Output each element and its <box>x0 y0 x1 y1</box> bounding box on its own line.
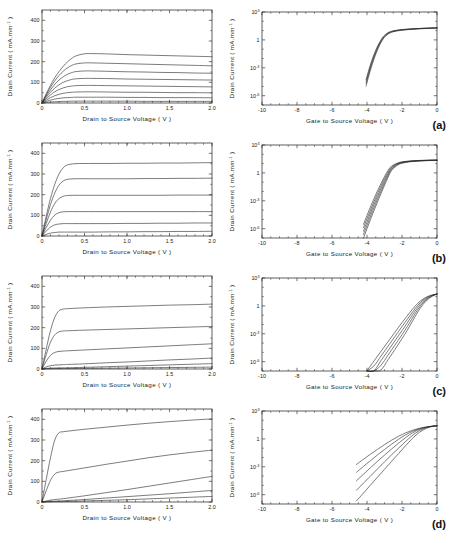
svg-text:Drain Current ( mA.mm-1 ): Drain Current ( mA.mm-1 ) <box>228 19 235 99</box>
panel-d-transfer-plot: -10-8-6-4-2010-610-31103Gate to Source V… <box>224 399 449 532</box>
svg-text:10-3: 10-3 <box>250 65 259 71</box>
svg-text:1: 1 <box>257 436 260 442</box>
svg-text:1.0: 1.0 <box>123 371 131 377</box>
panel-d-output-plot: 00.51.01.52.00100200300400Drain to Sourc… <box>0 399 224 532</box>
svg-text:1.0: 1.0 <box>123 504 131 510</box>
panel-row-b: 00.51.01.52.00100200300400Drain to Sourc… <box>0 133 449 266</box>
svg-text:Drain to Source Voltage ( V: Drain to Source Voltage ( V ) <box>83 381 172 388</box>
svg-text:300: 300 <box>31 304 40 310</box>
svg-text:Drain Current ( mA.mm-1 ): Drain Current ( mA.mm-1 ) <box>6 17 13 97</box>
panel-letter-c: (c) <box>433 385 446 397</box>
svg-text:-8: -8 <box>295 107 300 113</box>
svg-text:1.5: 1.5 <box>166 238 174 244</box>
svg-text:1.0: 1.0 <box>123 238 131 244</box>
svg-text:0: 0 <box>41 238 44 244</box>
svg-text:200: 200 <box>31 325 40 331</box>
svg-text:1.5: 1.5 <box>166 105 174 111</box>
figure-root: 00.51.01.52.00100200300400Drain to Sourc… <box>0 0 449 535</box>
panel-c-output-svg: 00.51.01.52.00100200300400Drain to Sourc… <box>0 266 224 399</box>
svg-text:0: 0 <box>436 107 439 113</box>
panel-row-c: 00.51.01.52.00100200300400Drain to Sourc… <box>0 266 449 399</box>
svg-text:0: 0 <box>436 373 439 379</box>
svg-text:-6: -6 <box>330 373 335 379</box>
svg-text:-2: -2 <box>400 506 405 512</box>
svg-text:0: 0 <box>37 233 40 239</box>
svg-text:-10: -10 <box>258 240 266 246</box>
svg-text:-10: -10 <box>258 506 266 512</box>
svg-text:103: 103 <box>251 275 259 281</box>
svg-text:1: 1 <box>257 170 260 176</box>
svg-text:-6: -6 <box>330 240 335 246</box>
panel-letter-a: (a) <box>433 119 446 131</box>
svg-text:300: 300 <box>31 437 40 443</box>
svg-text:0.5: 0.5 <box>81 504 89 510</box>
svg-text:-8: -8 <box>295 373 300 379</box>
svg-text:0.5: 0.5 <box>81 238 89 244</box>
svg-text:100: 100 <box>31 79 40 85</box>
svg-text:-8: -8 <box>295 240 300 246</box>
svg-text:Gate to Source Voltage ( V ): Gate to Source Voltage ( V ) <box>306 250 393 257</box>
svg-text:Gate to Source Voltage ( V ): Gate to Source Voltage ( V ) <box>306 516 393 523</box>
svg-text:1: 1 <box>257 37 260 43</box>
svg-text:-10: -10 <box>258 107 266 113</box>
svg-text:Drain to Source Voltage ( V: Drain to Source Voltage ( V ) <box>83 514 172 521</box>
svg-text:Drain Current ( mA.mm-1 ): Drain Current ( mA.mm-1 ) <box>228 285 235 365</box>
svg-text:0.5: 0.5 <box>81 371 89 377</box>
svg-text:2.0: 2.0 <box>208 238 216 244</box>
svg-text:200: 200 <box>31 192 40 198</box>
svg-text:300: 300 <box>31 38 40 44</box>
svg-text:2.0: 2.0 <box>208 105 216 111</box>
panel-d-output-svg: 00.51.01.52.00100200300400Drain to Sourc… <box>0 399 224 532</box>
panel-a-transfer-plot: -10-8-6-4-2010-610-31103Gate to Source V… <box>224 0 449 133</box>
svg-text:0: 0 <box>436 240 439 246</box>
svg-text:Drain Current ( mA.mm-1 ): Drain Current ( mA.mm-1 ) <box>6 283 13 363</box>
panel-row-d: 00.51.01.52.00100200300400Drain to Sourc… <box>0 399 449 532</box>
svg-text:10-3: 10-3 <box>250 464 259 470</box>
svg-text:-8: -8 <box>295 506 300 512</box>
svg-text:400: 400 <box>31 17 40 23</box>
svg-text:0: 0 <box>436 506 439 512</box>
svg-text:-6: -6 <box>330 107 335 113</box>
panel-letter-d: (d) <box>432 518 446 530</box>
svg-text:0: 0 <box>41 504 44 510</box>
panel-b-output-svg: 00.51.01.52.00100200300400Drain to Sourc… <box>0 133 224 266</box>
svg-text:Gate to Source Voltage ( V ): Gate to Source Voltage ( V ) <box>306 117 393 124</box>
svg-text:Gate to Source Voltage ( V ): Gate to Source Voltage ( V ) <box>306 383 393 390</box>
svg-text:100: 100 <box>31 212 40 218</box>
panel-b-transfer-svg: -10-8-6-4-2010-610-31103Gate to Source V… <box>224 133 449 266</box>
svg-text:10-6: 10-6 <box>250 359 259 365</box>
panel-a-output-svg: 00.51.01.52.00100200300400Drain to Sourc… <box>0 0 224 133</box>
svg-text:Drain Current ( mA.mm-1 ): Drain Current ( mA.mm-1 ) <box>228 152 235 232</box>
svg-text:-6: -6 <box>330 506 335 512</box>
svg-text:100: 100 <box>31 345 40 351</box>
svg-text:Drain to Source Voltage ( V: Drain to Source Voltage ( V ) <box>83 248 172 255</box>
svg-text:1.5: 1.5 <box>166 371 174 377</box>
svg-text:-2: -2 <box>400 373 405 379</box>
svg-text:103: 103 <box>251 408 259 414</box>
svg-text:1.5: 1.5 <box>166 504 174 510</box>
svg-text:400: 400 <box>31 283 40 289</box>
panel-c-transfer-plot: -10-8-6-4-2010-610-31103Gate to Source V… <box>224 266 449 399</box>
svg-text:-2: -2 <box>400 240 405 246</box>
svg-text:Drain Current ( mA.mm-1 ): Drain Current ( mA.mm-1 ) <box>6 150 13 230</box>
svg-text:300: 300 <box>31 171 40 177</box>
svg-text:0.5: 0.5 <box>81 105 89 111</box>
panel-b-output-plot: 00.51.01.52.00100200300400Drain to Sourc… <box>0 133 224 266</box>
svg-text:10-6: 10-6 <box>250 226 259 232</box>
panel-a-transfer-svg: -10-8-6-4-2010-610-31103Gate to Source V… <box>224 0 449 133</box>
svg-text:200: 200 <box>31 59 40 65</box>
svg-text:-4: -4 <box>365 506 370 512</box>
svg-text:-2: -2 <box>400 107 405 113</box>
svg-text:Drain Current ( mA.mm-1 ): Drain Current ( mA.mm-1 ) <box>6 416 13 496</box>
panel-b-transfer-plot: -10-8-6-4-2010-610-31103Gate to Source V… <box>224 133 449 266</box>
svg-text:-10: -10 <box>258 373 266 379</box>
panel-letter-b: (b) <box>432 252 446 264</box>
svg-text:103: 103 <box>251 142 259 148</box>
svg-text:400: 400 <box>31 150 40 156</box>
svg-text:-4: -4 <box>365 373 370 379</box>
svg-text:2.0: 2.0 <box>208 504 216 510</box>
svg-text:Drain to Source Voltage ( V: Drain to Source Voltage ( V ) <box>83 115 172 122</box>
svg-text:10-6: 10-6 <box>250 93 259 99</box>
svg-text:0: 0 <box>41 105 44 111</box>
svg-text:-4: -4 <box>365 107 370 113</box>
